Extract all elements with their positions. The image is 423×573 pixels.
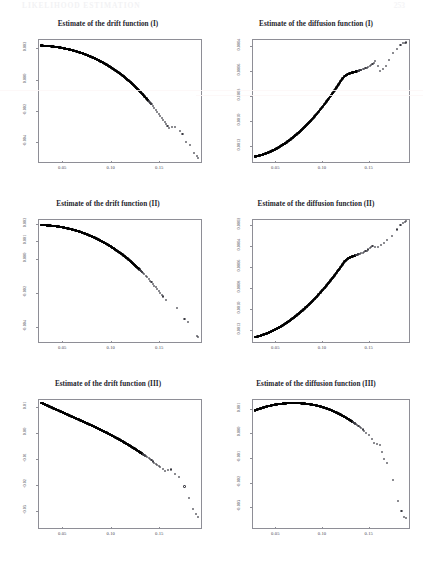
y-axis-tick xyxy=(250,96,252,97)
x-axis-tick-label: 0.15 xyxy=(357,345,381,350)
chart-title-diffusion-I: Estimate of the diffusion function (I) xyxy=(216,20,416,28)
y-axis-tick-label: 0.0010 xyxy=(230,117,248,122)
chart-title-drift-I: Estimate of the drift function (I) xyxy=(8,20,208,28)
y-axis-tick xyxy=(36,407,38,408)
y-axis-tick xyxy=(36,511,38,512)
y-axis-tick xyxy=(36,259,38,260)
data-point xyxy=(371,438,373,440)
chart-title-diffusion-II: Estimate of the diffusion function (II) xyxy=(216,200,416,208)
y-axis-tick xyxy=(250,71,252,72)
y-axis-tick xyxy=(36,485,38,486)
x-axis-tick-label: 0.10 xyxy=(99,165,123,170)
data-point xyxy=(383,242,385,244)
data-point xyxy=(170,468,172,470)
y-axis-tick-label: 0.0012 xyxy=(230,326,248,331)
y-axis-tick-label: -0.02 xyxy=(16,481,34,486)
y-axis-tick-label: -0.002 xyxy=(16,107,34,112)
y-axis-tick xyxy=(36,142,38,143)
y-axis-tick xyxy=(250,46,252,47)
x-axis-tick xyxy=(159,161,160,163)
y-axis-tick-label: -0.03 xyxy=(16,507,34,512)
x-axis-tick-label: 0.10 xyxy=(310,531,334,536)
x-axis-tick xyxy=(111,161,112,163)
data-point xyxy=(382,68,384,70)
data-point xyxy=(397,500,399,502)
y-axis-tick xyxy=(36,111,38,112)
data-point xyxy=(174,126,176,128)
chart-title-drift-III: Estimate of the drift function (III) xyxy=(8,380,208,388)
x-axis-tick-label: 0.05 xyxy=(50,345,74,350)
data-point xyxy=(174,473,176,475)
y-axis-tick-label: 0.0004 xyxy=(230,242,248,247)
x-axis-tick xyxy=(62,527,63,529)
y-axis-tick xyxy=(250,433,252,434)
y-axis-tick-label: 0.0006 xyxy=(230,263,248,268)
chart-panel-drift-II: Estimate of the drift function (II)0.002… xyxy=(8,200,208,360)
plot-area-diffusion-III: 0.0010.000-0.001-0.002-0.0030.050.100.15 xyxy=(216,391,416,546)
y-axis-tick-label: 0.0012 xyxy=(230,142,248,147)
plot-area-diffusion-II: 0.00120.00100.00080.00060.00040.00020.05… xyxy=(216,211,416,360)
y-axis-tick-label: -0.01 xyxy=(16,455,34,460)
x-axis-tick xyxy=(322,161,323,163)
data-point xyxy=(371,245,373,247)
chart-panel-diffusion-III: Estimate of the diffusion function (III)… xyxy=(216,380,416,546)
y-axis-tick xyxy=(250,121,252,122)
y-axis-tick xyxy=(36,48,38,49)
y-axis-tick xyxy=(250,246,252,247)
x-axis-tick xyxy=(275,161,276,163)
y-axis-tick xyxy=(36,433,38,434)
plot-area-drift-III: 0.010.00-0.01-0.02-0.030.050.100.15 xyxy=(8,391,208,546)
y-axis-tick xyxy=(250,225,252,226)
data-point xyxy=(197,336,199,338)
x-axis-tick xyxy=(62,161,63,163)
y-axis-tick xyxy=(250,330,252,331)
chart-panel-drift-III: Estimate of the drift function (III)0.01… xyxy=(8,380,208,546)
x-axis-tick-label: 0.10 xyxy=(310,165,334,170)
page-header: LIKELIHOOD ESTIMATION 253 xyxy=(0,0,423,12)
y-axis-tick-label: 0.000 xyxy=(16,76,34,81)
data-point xyxy=(405,41,407,43)
x-axis-tick-label: 0.15 xyxy=(147,531,171,536)
y-axis-tick-label: 0.0006 xyxy=(230,67,248,72)
data-point xyxy=(181,133,183,135)
y-axis-tick xyxy=(36,80,38,81)
x-axis-tick-label: 0.05 xyxy=(263,531,287,536)
chart-title-diffusion-III: Estimate of the diffusion function (III) xyxy=(216,380,416,388)
y-axis-tick-label: 0.0002 xyxy=(230,221,248,226)
y-axis-tick xyxy=(36,327,38,328)
y-axis-tick-label: 0.0008 xyxy=(230,284,248,289)
x-axis-tick xyxy=(159,527,160,529)
y-axis-tick xyxy=(250,309,252,310)
x-axis-tick-label: 0.10 xyxy=(310,345,334,350)
x-axis-tick-label: 0.05 xyxy=(263,165,287,170)
y-axis-tick xyxy=(250,288,252,289)
y-axis-tick-label: -0.004 xyxy=(16,323,34,328)
y-axis-tick-label: 0.001 xyxy=(230,405,248,410)
y-axis-tick xyxy=(36,459,38,460)
data-point xyxy=(197,157,199,159)
scan-artifact-line xyxy=(0,90,423,91)
x-axis-tick-label: 0.10 xyxy=(99,345,123,350)
data-point xyxy=(183,318,185,320)
y-axis-tick xyxy=(250,507,252,508)
x-axis-tick-label: 0.10 xyxy=(99,531,123,536)
y-axis-tick-label: 0.001 xyxy=(16,237,34,242)
x-axis-tick xyxy=(369,161,370,163)
y-axis-tick-label: 0.000 xyxy=(16,255,34,260)
y-axis-tick xyxy=(36,224,38,225)
x-axis-tick-label: 0.15 xyxy=(147,345,171,350)
data-point xyxy=(197,516,199,518)
y-axis-tick xyxy=(250,146,252,147)
page-number: 253 xyxy=(394,1,405,10)
y-axis-tick-label: 0.00 xyxy=(16,429,34,434)
data-point xyxy=(183,485,185,487)
chart-panel-diffusion-I: Estimate of the diffusion function (I)0.… xyxy=(216,20,416,180)
y-axis-tick xyxy=(250,409,252,410)
x-axis-tick-label: 0.15 xyxy=(147,165,171,170)
y-axis-tick-label: 0.01 xyxy=(16,403,34,408)
data-point xyxy=(162,295,164,297)
plot-frame xyxy=(38,219,202,343)
data-point xyxy=(368,434,370,436)
data-point xyxy=(164,470,166,472)
x-axis-tick xyxy=(275,341,276,343)
